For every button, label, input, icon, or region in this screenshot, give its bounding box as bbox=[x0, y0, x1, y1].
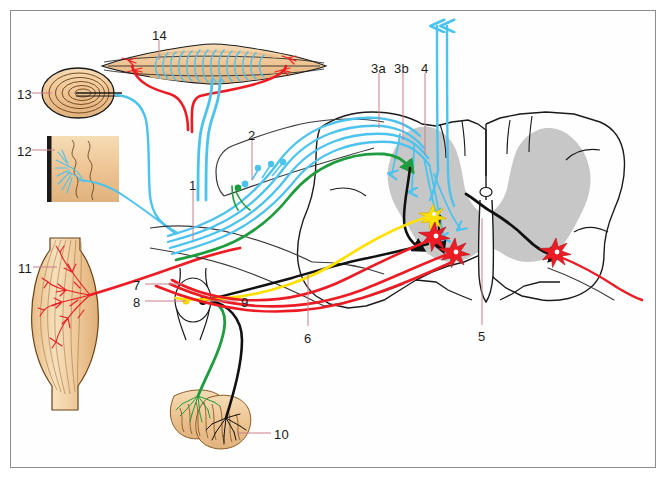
callout-label-10: 10 bbox=[274, 428, 289, 441]
muscle-belly bbox=[32, 238, 99, 410]
callout-label-5: 5 bbox=[478, 330, 486, 343]
ascending-arrow-1 bbox=[437, 26, 438, 170]
bouton-3 bbox=[268, 161, 274, 167]
callout-label-14: 14 bbox=[152, 29, 167, 42]
callout-label-2: 2 bbox=[248, 129, 256, 142]
callout-label-3a: 3a bbox=[371, 62, 386, 75]
alpha-motor-axon-to-muscle bbox=[90, 248, 240, 295]
epidermis-layer bbox=[47, 136, 52, 202]
alpha-nucleus-2 bbox=[454, 250, 459, 255]
callout-label-7: 7 bbox=[133, 279, 141, 292]
spindle-capsule bbox=[102, 44, 326, 84]
callout-label-13: 13 bbox=[17, 88, 32, 101]
skin-block bbox=[47, 136, 119, 202]
figure-page: 123a3b4567891011121314 bbox=[0, 0, 668, 480]
dorsal-notch-right bbox=[507, 120, 510, 154]
bouton-green bbox=[235, 185, 242, 192]
bouton-stalk-2 bbox=[252, 170, 258, 180]
ventral-median-fissure bbox=[479, 200, 494, 302]
muscle-spindle-14 bbox=[102, 44, 326, 200]
callout-label-6: 6 bbox=[304, 332, 312, 345]
callout-label-4: 4 bbox=[421, 62, 429, 75]
alpha-nucleus-1 bbox=[434, 234, 439, 239]
alpha-efferent-red-1 bbox=[172, 240, 430, 300]
callout-label-12: 12 bbox=[17, 145, 32, 158]
gamma-nucleus bbox=[432, 212, 436, 216]
lateral-fissure-left bbox=[330, 188, 366, 196]
golgi-tendon-organ-10 bbox=[170, 298, 250, 449]
alpha-nucleus-3 bbox=[555, 250, 560, 255]
central-canal-5 bbox=[480, 188, 492, 197]
ventral-notch-left bbox=[416, 280, 472, 300]
free-nerve-endings-skin-12 bbox=[47, 136, 176, 234]
bouton-1 bbox=[242, 181, 249, 188]
callout-label-3b: 3b bbox=[394, 62, 409, 75]
nerve-bulb-outline bbox=[216, 146, 232, 196]
callout-label-11: 11 bbox=[18, 262, 32, 275]
bouton-2 bbox=[255, 165, 261, 171]
ia-afferent-axon-2 bbox=[206, 80, 220, 200]
lateral-fissure-right-2 bbox=[574, 228, 608, 233]
callout-label-9: 9 bbox=[241, 296, 249, 309]
callout-label-8: 8 bbox=[133, 296, 141, 309]
ascending-arrow-2 bbox=[447, 26, 448, 170]
dorsal-notch-left-2 bbox=[462, 121, 465, 156]
contralateral-sheath bbox=[548, 268, 614, 300]
diagram-canvas bbox=[0, 0, 668, 480]
alpha-efferent-contralateral bbox=[558, 256, 642, 300]
callout-label-1: 1 bbox=[189, 179, 197, 192]
dorsal-root-ganglion-9 bbox=[175, 268, 211, 340]
bouton-4 bbox=[280, 159, 286, 165]
skeletal-muscle-motor-endplate-11 bbox=[32, 238, 240, 410]
